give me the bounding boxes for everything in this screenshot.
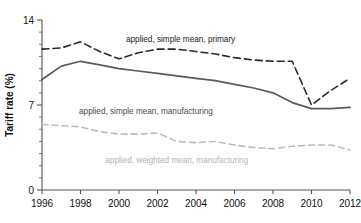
y-tick-label-7: 7 <box>28 100 34 111</box>
series-label-weighted-manufacturing: applied, weighted mean, manufacturing <box>105 156 248 165</box>
series-line-2 <box>42 61 350 108</box>
y-tick-label-0: 0 <box>28 185 34 196</box>
x-tick-label-1998: 1998 <box>69 198 92 209</box>
series-line-3 <box>42 124 350 149</box>
chart-canvas: 0714199619982000200220042006200820102012… <box>0 0 361 223</box>
x-tick-label-2004: 2004 <box>185 198 208 209</box>
tariff-rate-line-chart: 0714199619982000200220042006200820102012… <box>0 0 361 223</box>
x-tick-label-2002: 2002 <box>146 198 169 209</box>
y-tick-label-14: 14 <box>23 15 35 26</box>
series-label-simple-manufacturing: applied, simple mean, manufacturing <box>79 107 213 116</box>
y-axis-title: Tariff rate (%) <box>4 73 15 137</box>
series-label-primary: applied, simple mean, primary <box>126 35 236 44</box>
x-tick-label-2008: 2008 <box>262 198 285 209</box>
x-tick-label-2000: 2000 <box>108 198 131 209</box>
x-tick-label-2010: 2010 <box>300 198 323 209</box>
x-tick-label-1996: 1996 <box>31 198 54 209</box>
series-line-1 <box>42 42 350 105</box>
x-tick-label-2012: 2012 <box>339 198 361 209</box>
x-tick-label-2006: 2006 <box>223 198 246 209</box>
